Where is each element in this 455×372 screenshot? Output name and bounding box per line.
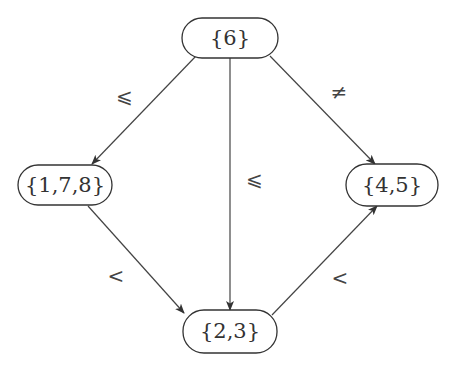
edge-23-to-45 bbox=[272, 206, 377, 315]
edge-178-to-23 bbox=[88, 206, 184, 313]
edge-label-178-23: < bbox=[108, 264, 125, 288]
graph-canvas: ⩽ ⩽ ≠ < < {6} {1,7,8} {4,5} {2,3} bbox=[0, 0, 455, 372]
edge-label-23-45: < bbox=[332, 266, 349, 290]
edge-label-6-178: ⩽ bbox=[116, 84, 133, 108]
node-label-23: {2,3} bbox=[200, 319, 260, 343]
node-label-45: {4,5} bbox=[362, 173, 422, 197]
edge-label-6-45: ≠ bbox=[331, 80, 348, 104]
node-23: {2,3} bbox=[183, 310, 277, 353]
node-178: {1,7,8} bbox=[18, 165, 112, 205]
node-6: {6} bbox=[182, 18, 278, 58]
node-label-6: {6} bbox=[210, 26, 250, 50]
edge-label-6-23: ⩽ bbox=[246, 167, 263, 191]
node-label-178: {1,7,8} bbox=[25, 173, 105, 197]
node-45: {4,5} bbox=[346, 164, 438, 206]
edge-6-to-178 bbox=[92, 56, 196, 164]
edge-6-to-45 bbox=[270, 56, 375, 164]
